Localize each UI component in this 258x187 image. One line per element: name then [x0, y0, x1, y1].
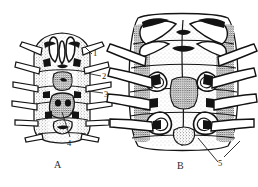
callout-label-2: 2 [102, 71, 106, 81]
callout-label-1: 1 [93, 48, 97, 58]
figure-caption-b: B [177, 160, 184, 171]
callout-label-4: 4 [67, 138, 71, 148]
figure-b-anal-field [173, 127, 194, 145]
figure-a-gnathosoma [49, 37, 75, 64]
figure-caption-a: A [54, 159, 61, 170]
figure-b-drawing [107, 14, 257, 163]
callout-label-3: 3 [104, 89, 108, 99]
callout-label-5: 5 [218, 158, 222, 168]
figure-plate: 1 2 3 4 5 A B [0, 0, 258, 187]
figure-b-sternal-field [170, 77, 197, 109]
